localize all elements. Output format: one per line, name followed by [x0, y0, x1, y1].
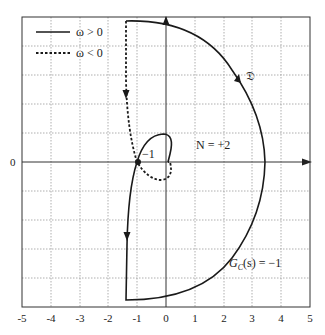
controller-label: GC(s) = −1	[229, 256, 281, 272]
nyquist-plot: −1 ω > 0 ω < 0 𝔇 N = +2 GC(s) = −1 0 -5 …	[0, 0, 325, 335]
y-tick-zero: 0	[10, 156, 16, 168]
contour-label: 𝔇	[246, 69, 255, 83]
svg-text:1: 1	[192, 312, 198, 324]
arrow-down-icon	[124, 232, 131, 241]
legend-positive-label: ω > 0	[76, 25, 103, 39]
svg-text:-3: -3	[75, 312, 85, 324]
legend-negative-label: ω < 0	[76, 46, 103, 60]
encirclement-label: N = +2	[196, 138, 230, 152]
svg-text:2: 2	[221, 312, 227, 324]
critical-point-label: −1	[142, 147, 155, 161]
x-tick-labels: -5 -4 -3 -2 -1 0 1 2 3 4 5	[17, 312, 313, 324]
svg-text:3: 3	[249, 312, 255, 324]
svg-text:5: 5	[307, 312, 313, 324]
arrow-down-icon	[123, 90, 130, 99]
critical-point-marker	[135, 159, 141, 165]
svg-text:-4: -4	[46, 312, 56, 324]
svg-text:4: 4	[278, 312, 284, 324]
svg-text:-1: -1	[132, 312, 141, 324]
svg-text:-5: -5	[17, 312, 27, 324]
legend: ω > 0 ω < 0	[36, 25, 103, 60]
svg-text:0: 0	[163, 312, 169, 324]
svg-text:-2: -2	[103, 312, 112, 324]
